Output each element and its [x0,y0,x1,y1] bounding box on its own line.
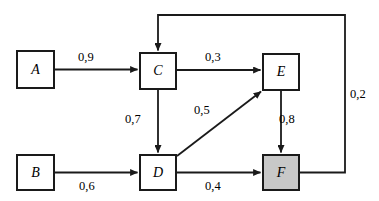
node-a[interactable]: A [16,50,55,89]
graph-edges-layer [0,0,379,201]
node-a-label: A [31,63,40,77]
edge-label-c-d: 0,7 [125,113,141,126]
node-b-label: B [31,166,40,180]
node-b[interactable]: B [16,154,55,191]
node-d[interactable]: D [139,154,177,191]
edge-label-d-e: 0,5 [194,104,210,117]
edge-label-f-c: 0,2 [350,88,366,101]
edge-label-e-f: 0,8 [279,113,295,126]
node-f-label: F [277,166,286,180]
node-f[interactable]: F [262,154,300,191]
edge-label-c-e: 0,3 [205,51,221,64]
node-c-label: C [153,64,162,78]
diagram-canvas: A B C D E F 0,9 0,3 0,7 0,5 0,8 0,6 0,4 … [0,0,379,201]
node-c[interactable]: C [139,52,177,90]
edge-label-d-f: 0,4 [205,180,221,193]
node-e-label: E [277,65,286,79]
edge-label-b-d: 0,6 [79,180,95,193]
edge-label-a-c: 0,9 [78,51,94,64]
node-d-label: D [153,166,163,180]
edge-d-e [177,92,261,157]
node-e[interactable]: E [262,53,300,91]
